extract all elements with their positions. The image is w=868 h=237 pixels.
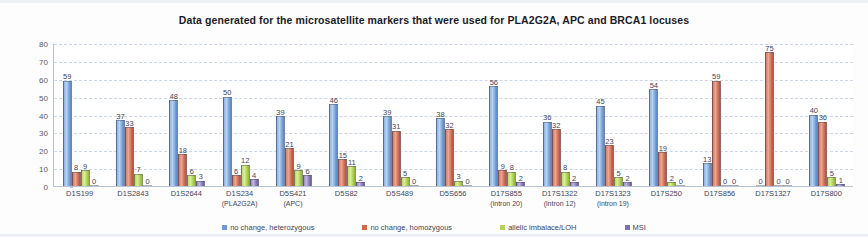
legend-item[interactable]: allelic imbalace/LOH — [500, 223, 576, 232]
legend-item[interactable]: MSI — [625, 223, 646, 232]
bar-value-label: 75 — [765, 45, 773, 53]
bar[interactable]: 39 — [383, 116, 392, 186]
bar[interactable]: 18 — [178, 154, 187, 186]
bar-slot: 46 — [329, 44, 338, 186]
legend-label: no change, heterozygous — [230, 223, 314, 232]
bar-group: 07500 — [747, 44, 800, 186]
bar[interactable]: 0 — [730, 185, 739, 186]
bar[interactable]: 0 — [774, 185, 783, 186]
bar[interactable]: 0 — [783, 185, 792, 186]
bar[interactable]: 9 — [294, 170, 303, 186]
bar[interactable]: 39 — [276, 116, 285, 186]
x-tick-label: D17S855(intron 20) — [480, 189, 533, 209]
bar-value-label: 9 — [501, 163, 505, 171]
bar-slot: 2 — [516, 44, 525, 186]
x-tick-sublabel: (intron 20) — [480, 199, 533, 208]
bar[interactable]: 8 — [561, 172, 570, 186]
bar[interactable]: 5 — [401, 177, 410, 186]
bar[interactable]: 2 — [516, 182, 525, 186]
bar[interactable]: 11 — [347, 166, 356, 186]
bar-slot: 8 — [507, 44, 516, 186]
bar-value-label: 48 — [170, 93, 178, 101]
y-tick-label: 0 — [22, 183, 48, 192]
bar[interactable]: 40 — [809, 115, 818, 187]
bar[interactable]: 6 — [187, 175, 196, 186]
bar-slot: 2 — [667, 44, 676, 186]
bar[interactable]: 50 — [223, 97, 232, 186]
x-tick-label: D1S2644 — [160, 189, 213, 199]
x-tick-sublabel: (intron 19) — [586, 199, 639, 208]
plot-area: 5989037337048186350612439219646151123931… — [53, 44, 853, 187]
legend-item[interactable]: no change, homozygous — [362, 223, 452, 232]
bar-value-label: 1 — [839, 177, 843, 185]
bar-slot: 59 — [712, 44, 721, 186]
bar[interactable]: 36 — [543, 122, 552, 186]
bar[interactable]: 5 — [827, 177, 836, 186]
legend-swatch-icon — [222, 225, 227, 230]
bar[interactable]: 0 — [676, 185, 685, 186]
bar[interactable]: 32 — [552, 129, 561, 186]
bar[interactable]: 0 — [90, 185, 99, 186]
bar-slot: 18 — [178, 44, 187, 186]
bar[interactable]: 36 — [818, 122, 827, 186]
bar-slot: 0 — [143, 44, 152, 186]
bar[interactable]: 0 — [463, 185, 472, 186]
bar[interactable]: 3 — [196, 181, 205, 186]
bar-slot: 0 — [410, 44, 419, 186]
bar[interactable]: 59 — [63, 81, 72, 186]
bar[interactable]: 8 — [507, 172, 516, 186]
bar[interactable]: 21 — [285, 148, 294, 186]
bar-value-label: 31 — [392, 123, 400, 131]
bar-value-label: 0 — [732, 178, 736, 186]
bar-group: 393150 — [374, 44, 427, 186]
bar[interactable]: 5 — [614, 177, 623, 186]
bar-slot: 48 — [169, 44, 178, 186]
x-tick-sublabel: (PLA2G2A) — [213, 199, 266, 208]
bar[interactable]: 3 — [454, 181, 463, 186]
bar[interactable]: 15 — [338, 159, 347, 186]
bar[interactable]: 0 — [143, 185, 152, 186]
bar[interactable]: 4 — [250, 179, 259, 186]
bar[interactable]: 33 — [125, 127, 134, 186]
bar[interactable]: 19 — [658, 152, 667, 186]
bar-slot: 56 — [489, 44, 498, 186]
bar[interactable]: 56 — [489, 86, 498, 186]
bar[interactable]: 8 — [72, 172, 81, 186]
bar[interactable]: 0 — [410, 185, 419, 186]
legend-item[interactable]: no change, heterozygous — [222, 223, 314, 232]
bar[interactable]: 6 — [303, 175, 312, 186]
bar-value-label: 5 — [403, 170, 407, 178]
bar[interactable]: 75 — [765, 52, 774, 186]
bar[interactable]: 37 — [116, 120, 125, 186]
bar-value-label: 46 — [330, 97, 338, 105]
bar[interactable]: 2 — [570, 182, 579, 186]
bar[interactable]: 23 — [605, 145, 614, 186]
bar[interactable]: 13 — [703, 163, 712, 186]
bar[interactable]: 2 — [623, 182, 632, 186]
bar[interactable]: 2 — [356, 182, 365, 186]
bar[interactable]: 45 — [596, 106, 605, 186]
bar[interactable]: 59 — [712, 81, 721, 186]
bar[interactable]: 2 — [667, 182, 676, 186]
bar-slot: 59 — [63, 44, 72, 186]
bar[interactable]: 9 — [498, 170, 507, 186]
bar[interactable]: 54 — [649, 89, 658, 186]
bar[interactable]: 31 — [392, 131, 401, 186]
bar-value-label: 5 — [616, 170, 620, 178]
bar[interactable]: 38 — [436, 118, 445, 186]
bar[interactable]: 7 — [134, 174, 143, 187]
bar-slot: 45 — [596, 44, 605, 186]
x-tick-label: D1S234(PLA2G2A) — [213, 189, 266, 209]
bar[interactable]: 6 — [232, 175, 241, 186]
bar-value-label: 33 — [125, 120, 133, 128]
bar[interactable]: 46 — [329, 104, 338, 186]
bar[interactable]: 12 — [241, 165, 250, 186]
bar[interactable]: 32 — [445, 129, 454, 186]
bar[interactable]: 0 — [756, 185, 765, 186]
bar[interactable]: 1 — [836, 184, 845, 186]
bar-slot: 75 — [765, 44, 774, 186]
bar[interactable]: 9 — [81, 170, 90, 186]
bar-value-label: 12 — [241, 157, 249, 165]
bar[interactable]: 0 — [721, 185, 730, 186]
bar[interactable]: 48 — [169, 100, 178, 186]
